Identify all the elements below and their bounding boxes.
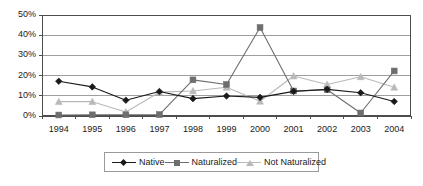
x-axis-tick-label: 1999 (210, 124, 244, 134)
data-point-square (56, 112, 62, 118)
legend-label: Naturalized (192, 157, 238, 167)
data-point-diamond (223, 93, 230, 100)
data-point-square (157, 112, 163, 118)
legend-item-naturalized[interactable]: Naturalized (165, 157, 238, 167)
data-point-diamond (190, 95, 197, 102)
x-axis-tick-label: 1994 (42, 124, 76, 134)
data-point-square (89, 112, 95, 118)
x-axis-tick-label: 1996 (109, 124, 143, 134)
data-point-diamond (55, 78, 62, 85)
data-point-square (391, 68, 397, 74)
data-point-triangle (357, 73, 364, 79)
y-axis-tick-label: 20% (0, 70, 36, 80)
legend-item-native[interactable]: Native (112, 157, 165, 167)
series-naturalized (56, 25, 397, 118)
y-axis-tick-label: 50% (0, 9, 36, 19)
x-axis-tick-label: 2004 (377, 124, 411, 134)
legend-swatch-triangle-icon (237, 158, 261, 167)
legend-label: Not Naturalized (264, 157, 326, 167)
x-axis-tick-label: 2001 (277, 124, 311, 134)
y-axis-tick-label: 10% (0, 90, 36, 100)
legend-swatch-square-icon (165, 158, 189, 167)
x-axis-tick-label: 2000 (243, 124, 277, 134)
plot-border (43, 16, 411, 116)
x-axis-tick-label: 1997 (142, 124, 176, 134)
legend-marker-icon (174, 160, 180, 166)
y-axis-tick-label: 0% (0, 110, 36, 120)
x-axis-tick-label: 1995 (75, 124, 109, 134)
legend-label: Native (139, 157, 165, 167)
legend-marker-icon (120, 158, 127, 165)
data-point-square (257, 25, 263, 31)
data-point-square (123, 112, 129, 118)
line-chart: 0%10%20%30%40%50% 1994199519961997199819… (0, 0, 423, 186)
series-line (59, 28, 394, 115)
data-point-square (358, 110, 364, 116)
data-point-square (224, 82, 230, 88)
y-axis-tick-label: 30% (0, 49, 36, 59)
x-axis-tick-label: 2003 (344, 124, 378, 134)
data-point-diamond (357, 89, 364, 96)
x-axis-tick-label: 2002 (310, 124, 344, 134)
legend-item-not-naturalized[interactable]: Not Naturalized (237, 157, 326, 167)
x-axis-tick-label: 1998 (176, 124, 210, 134)
data-point-square (190, 77, 196, 83)
legend-marker-icon (246, 160, 254, 166)
y-axis-tick-label: 40% (0, 29, 36, 39)
chart-legend: NativeNaturalizedNot Naturalized (104, 152, 319, 172)
data-point-diamond (89, 84, 96, 91)
data-point-diamond (391, 98, 398, 105)
legend-swatch-diamond-icon (112, 158, 136, 167)
data-point-diamond (123, 97, 130, 104)
